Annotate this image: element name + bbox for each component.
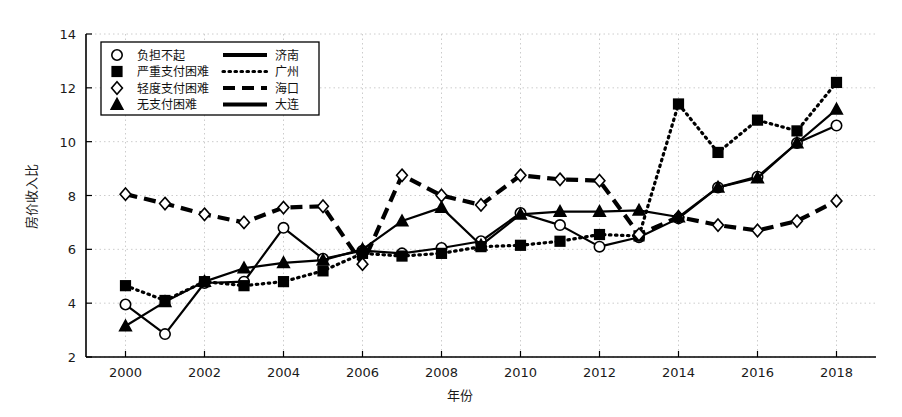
data-point-广州-2003	[239, 281, 249, 291]
x-tick-label: 2016	[741, 365, 774, 380]
data-point-济南-2004	[278, 223, 288, 233]
y-tick-label: 14	[59, 27, 76, 42]
data-point-广州-2008	[437, 249, 447, 259]
legend-series-label: 大连	[275, 97, 299, 112]
data-point-广州-2016	[753, 115, 763, 125]
y-axis-title: 房价收入比	[24, 164, 39, 229]
data-point-济南-2018	[831, 120, 841, 130]
legend-series-label: 海口	[275, 81, 299, 96]
y-tick-label: 12	[59, 81, 76, 96]
legend-marker-label: 轻度支付困难	[137, 81, 209, 96]
data-point-济南-2012	[594, 241, 604, 251]
data-point-广州-2004	[279, 277, 289, 287]
x-tick-label: 2002	[188, 365, 221, 380]
legend-marker-square-icon	[112, 67, 122, 77]
legend-marker-label: 负担不起	[137, 49, 185, 63]
legend-marker-circle-icon	[112, 50, 122, 60]
y-tick-label: 4	[68, 296, 76, 311]
data-point-济南-2011	[555, 220, 565, 230]
data-point-广州-2014	[674, 99, 684, 109]
legend-series-label: 济南	[275, 48, 299, 63]
y-tick-label: 8	[68, 189, 76, 204]
data-point-广州-2017	[792, 126, 802, 136]
legend-marker-label: 严重支付困难	[137, 65, 209, 79]
y-tick-label: 2	[68, 350, 76, 365]
y-tick-label: 10	[59, 135, 76, 150]
legend-marker-label: 无支付困难	[137, 98, 197, 112]
x-tick-label: 2014	[662, 365, 695, 380]
chart-figure: 2000200220042006200820102012201420162018…	[0, 0, 902, 417]
data-point-广州-2018	[832, 78, 842, 88]
x-tick-label: 2012	[583, 365, 616, 380]
y-tick-label: 6	[68, 242, 76, 257]
data-point-济南-2001	[160, 329, 170, 339]
data-point-济南-2000	[120, 299, 130, 309]
x-tick-label: 2006	[346, 365, 379, 380]
x-tick-label: 2000	[109, 365, 142, 380]
data-point-广州-2011	[555, 236, 565, 246]
house-price-income-ratio-line-chart: 2000200220042006200820102012201420162018…	[0, 0, 902, 417]
data-point-广州-2010	[516, 240, 526, 250]
x-tick-label: 2018	[820, 365, 853, 380]
data-point-广州-2007	[397, 251, 407, 261]
data-point-广州-2000	[121, 281, 131, 291]
data-point-广州-2012	[595, 230, 605, 240]
data-point-广州-2015	[713, 148, 723, 158]
legend-series-label: 广州	[275, 65, 299, 79]
x-tick-label: 2008	[425, 365, 458, 380]
data-point-广州-2005	[318, 266, 328, 276]
x-tick-label: 2004	[267, 365, 300, 380]
x-tick-label: 2010	[504, 365, 537, 380]
x-axis-title: 年份	[447, 388, 473, 403]
chart-legend: 负担不起济南严重支付困难广州轻度支付困难海口无支付困难大连	[101, 42, 319, 115]
